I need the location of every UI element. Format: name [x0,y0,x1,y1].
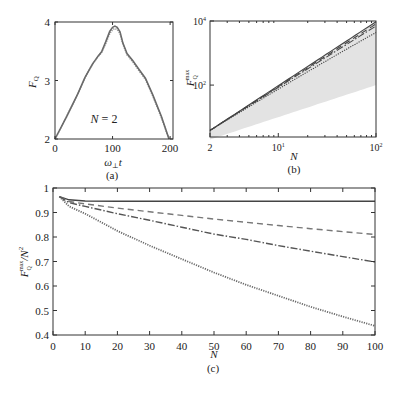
y-tick-label: 4 [45,16,51,28]
curve-dotted [59,197,375,326]
y-tick-label: 3 [45,75,51,87]
panel-c-caption: (c) [207,362,220,375]
x-tick-label: 101 [272,142,285,153]
panel-b: 2101102102104 N (b) FQmax [184,16,383,176]
panel-c-curves [59,197,375,326]
panel-a-annotation: N = 2 [90,112,118,126]
curve-dashed [59,197,375,235]
x-tick-label: 200 [162,142,179,154]
y-tick-label: 0.4 [35,329,49,341]
curve-dashdot [59,197,375,262]
x-tick-label: 0 [50,340,56,352]
x-tick-label: 20 [112,340,124,352]
x-tick-label: 60 [241,340,253,352]
y-tick-label: 0.5 [35,305,49,317]
y-tick-label: 0.6 [35,280,49,292]
panel-c-ylabel: FQmax/N2 [17,246,32,278]
panel-a: 0100200234 N = 2 ω⊥t (a) FQ [26,16,179,182]
panel-a-xlabel: ω⊥t [104,156,122,170]
y-tick-label: 2 [45,133,51,145]
panel-c: 01020304050607080901000.40.50.60.70.80.9… [17,182,384,375]
x-tick-label: 70 [273,340,285,352]
panel-b-caption: (b) [288,163,301,176]
x-tick-label: 100 [104,142,121,154]
y-tick-label: 0.8 [35,231,49,243]
panel-c-xlabel: N [209,348,218,360]
y-tick-label: 1 [44,182,50,194]
x-tick-label: 40 [176,340,188,352]
y-tick-label: 0.9 [35,207,49,219]
x-tick-label: 0 [52,142,58,154]
panel-a-ticks: 0100200234 [45,16,179,154]
figure: 0100200234 N = 2 ω⊥t (a) FQ 210110210210… [0,0,397,394]
panel-a-caption: (a) [106,169,119,182]
panel-b-xlabel: N [289,150,298,162]
panel-b-ylabel: FQmax [184,70,198,87]
x-tick-label: 80 [305,340,317,352]
panel-a-ylabel: FQ [26,76,40,89]
curve-solid [59,197,375,202]
x-tick-label: 30 [144,340,156,352]
y-tick-label: 104 [193,16,206,27]
x-tick-label: 100 [367,340,384,352]
x-tick-label: 102 [370,142,383,153]
x-tick-label: 10 [80,340,92,352]
x-tick-label: 2 [208,142,213,153]
y-tick-label: 0.7 [35,256,49,268]
x-tick-label: 90 [337,340,349,352]
